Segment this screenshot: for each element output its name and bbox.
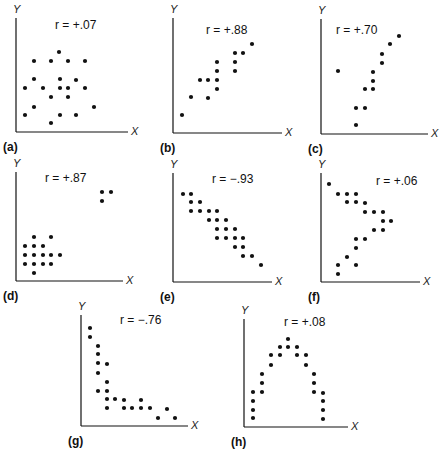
data-point xyxy=(215,87,219,91)
data-point xyxy=(260,372,264,376)
data-point xyxy=(88,326,92,330)
data-point xyxy=(23,253,27,257)
data-point xyxy=(49,59,53,63)
scatter-panel-b: YXr = +.88(b) xyxy=(148,0,296,152)
data-point xyxy=(286,345,290,349)
data-point xyxy=(233,227,237,231)
data-point xyxy=(354,192,358,196)
data-point xyxy=(363,237,367,241)
y-axis-label: Y xyxy=(170,158,177,170)
data-point xyxy=(286,337,290,341)
data-point xyxy=(207,218,211,222)
data-point xyxy=(58,113,62,117)
data-point xyxy=(372,228,376,232)
data-point xyxy=(83,86,87,90)
data-point xyxy=(49,235,53,239)
data-point xyxy=(312,381,316,385)
data-point xyxy=(345,255,349,259)
data-point xyxy=(224,236,228,240)
data-point xyxy=(354,106,358,110)
data-point xyxy=(260,390,264,394)
data-point xyxy=(278,353,282,357)
scatter-panel-a: YXr = +.07(a) xyxy=(0,0,148,152)
data-point xyxy=(23,244,27,248)
data-point xyxy=(269,363,273,367)
data-point xyxy=(336,263,340,267)
data-point xyxy=(32,77,36,81)
y-axis-label: Y xyxy=(170,3,177,15)
x-axis-label: X xyxy=(285,126,292,138)
scatter-panel-g: YXr = −.76(g) xyxy=(70,295,218,447)
data-point xyxy=(371,79,375,83)
data-point xyxy=(233,51,237,55)
data-point xyxy=(354,237,358,241)
scatter-panel-e: YXr = −.93(e) xyxy=(148,145,296,297)
data-point xyxy=(250,254,254,258)
data-point xyxy=(58,86,62,90)
data-point xyxy=(105,380,109,384)
data-point xyxy=(363,201,367,205)
x-axis-label: X xyxy=(191,419,198,431)
y-axis-label: Y xyxy=(13,157,20,169)
data-point xyxy=(58,77,62,81)
data-point xyxy=(32,253,36,257)
data-point xyxy=(198,209,202,213)
data-point xyxy=(105,389,109,393)
data-point xyxy=(156,416,160,420)
data-point xyxy=(215,60,219,64)
data-point xyxy=(32,105,36,109)
data-point xyxy=(122,398,126,402)
data-point xyxy=(295,353,299,357)
data-point xyxy=(354,200,358,204)
y-axis-label: Y xyxy=(13,3,20,15)
data-point xyxy=(181,192,185,196)
data-point xyxy=(250,42,254,46)
correlation-annotation: r = +.88 xyxy=(206,23,247,37)
data-point xyxy=(327,182,331,186)
correlation-annotation: r = +.70 xyxy=(336,23,377,37)
data-point xyxy=(58,253,62,257)
data-point xyxy=(251,416,255,420)
data-point xyxy=(381,228,385,232)
data-point xyxy=(206,78,210,82)
data-point xyxy=(92,105,96,109)
data-point xyxy=(96,344,100,348)
data-point xyxy=(269,353,273,357)
data-point xyxy=(380,61,384,65)
data-point xyxy=(381,219,385,223)
data-point xyxy=(215,69,219,73)
data-point xyxy=(321,417,325,421)
data-point xyxy=(215,236,219,240)
data-point xyxy=(304,353,308,357)
data-point xyxy=(139,398,143,402)
data-point xyxy=(130,406,134,410)
data-point xyxy=(32,244,36,248)
data-point xyxy=(206,96,210,100)
data-point xyxy=(380,52,384,56)
data-point xyxy=(96,361,100,365)
data-point xyxy=(180,113,184,117)
data-point xyxy=(371,70,375,74)
data-point xyxy=(363,210,367,214)
data-point xyxy=(336,192,340,196)
data-point xyxy=(389,219,393,223)
data-point xyxy=(321,399,325,403)
data-point xyxy=(96,389,100,393)
y-axis-label: Y xyxy=(318,4,325,16)
x-axis-label: X xyxy=(431,127,438,139)
scatter-panel-f: YXr = +.06(f) xyxy=(296,145,444,297)
data-point xyxy=(96,352,100,356)
data-point xyxy=(295,345,299,349)
data-point xyxy=(251,399,255,403)
data-point xyxy=(49,95,53,99)
y-axis-label: Y xyxy=(241,304,248,316)
data-point xyxy=(251,408,255,412)
data-point xyxy=(74,78,78,82)
x-axis-label: X xyxy=(351,420,358,432)
data-point xyxy=(336,69,340,73)
data-point xyxy=(57,50,61,54)
data-point xyxy=(397,34,401,38)
correlation-annotation: r = +.08 xyxy=(284,315,325,329)
data-point xyxy=(41,244,45,248)
correlation-annotation: r = +.06 xyxy=(376,174,417,188)
